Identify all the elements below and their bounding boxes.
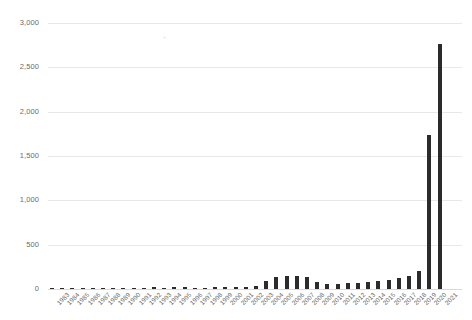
artifact-speck — [163, 36, 166, 39]
bar-series — [48, 23, 462, 289]
bar — [264, 281, 268, 289]
bar — [387, 280, 391, 289]
bar — [427, 135, 431, 289]
bar — [438, 44, 442, 289]
bar — [366, 282, 370, 289]
bar — [274, 277, 278, 289]
bar — [407, 276, 411, 289]
y-tick-label: 2,000 — [20, 108, 39, 116]
bar-chart: 05001,0001,5002,0002,5003,000 1983198419… — [0, 0, 472, 320]
bar — [397, 278, 401, 289]
y-tick-label: 1,500 — [20, 152, 39, 160]
bar — [285, 276, 289, 289]
bar — [295, 276, 299, 289]
y-tick-label: 2,500 — [20, 63, 39, 71]
bar — [376, 281, 380, 289]
y-tick-label: 500 — [26, 241, 39, 249]
bar — [305, 277, 309, 289]
x-axis-labels: 1983198419851986198719881989199019911992… — [48, 289, 472, 320]
y-tick-label: 3,000 — [20, 19, 39, 27]
plot-area — [48, 23, 462, 289]
y-axis-labels: 05001,0001,5002,0002,5003,000 — [0, 0, 44, 320]
bar — [417, 271, 421, 289]
y-tick-label: 1,000 — [20, 196, 39, 204]
y-tick-label: 0 — [35, 285, 39, 293]
bar — [315, 282, 319, 289]
